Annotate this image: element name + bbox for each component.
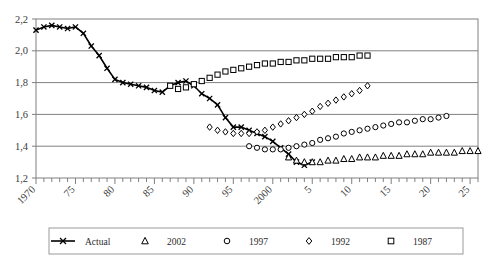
circle-marker xyxy=(404,120,409,125)
circle-marker xyxy=(412,118,417,123)
y-tick-label: 1,6 xyxy=(15,109,28,120)
circle-marker xyxy=(325,136,330,141)
y-tick-label: 2,0 xyxy=(15,45,28,56)
x-tick-label: 95 xyxy=(220,184,235,199)
circle-marker xyxy=(247,144,252,149)
x-tick-label: 15 xyxy=(377,184,392,199)
circle-marker xyxy=(373,125,378,130)
square-marker xyxy=(294,58,299,63)
fertility-projection-chart: 2,22,01,81,61,41,2 197075808590952000510… xyxy=(0,0,495,263)
x-tick-label: 90 xyxy=(180,184,195,199)
circle-marker xyxy=(310,140,315,145)
circle-marker xyxy=(436,115,441,120)
circle-marker xyxy=(254,145,259,150)
square-marker xyxy=(388,238,394,244)
square-marker xyxy=(207,75,212,80)
x-tick-label: 75 xyxy=(62,184,77,199)
circle-marker xyxy=(294,144,299,149)
circle-marker xyxy=(389,121,394,126)
circle-marker xyxy=(302,142,307,147)
plot-background xyxy=(36,19,478,178)
square-marker xyxy=(278,59,283,64)
y-tick-label: 1,4 xyxy=(15,141,29,152)
square-marker xyxy=(223,69,228,74)
circle-marker xyxy=(341,131,346,136)
legend-label: 1997 xyxy=(249,237,268,247)
y-axis-ticks xyxy=(32,19,36,178)
legend-label: 1992 xyxy=(331,237,350,247)
x-tick-label: 80 xyxy=(101,184,116,199)
circle-marker xyxy=(262,147,267,152)
square-marker xyxy=(262,61,267,66)
circle-marker xyxy=(357,128,362,133)
x-axis-ticks xyxy=(36,178,478,184)
circle-marker xyxy=(286,145,291,150)
square-marker xyxy=(341,55,346,60)
legend-label: 1987 xyxy=(413,237,432,247)
circle-marker xyxy=(381,123,386,128)
legend-label: 2002 xyxy=(167,237,186,247)
square-marker xyxy=(302,58,307,63)
plot-area xyxy=(32,19,478,184)
square-marker xyxy=(349,55,354,60)
square-marker xyxy=(239,66,244,71)
chart-container: 2,22,01,81,61,41,2 197075808590952000510… xyxy=(0,0,495,263)
circle-marker xyxy=(278,147,283,152)
square-marker xyxy=(231,67,236,72)
circle-marker xyxy=(349,129,354,134)
x-tick-label: 10 xyxy=(338,184,353,199)
square-marker xyxy=(247,64,252,69)
x-tick-label: 85 xyxy=(141,184,156,199)
y-tick-label: 2,2 xyxy=(15,14,28,25)
y-tick-label: 1,8 xyxy=(15,77,28,88)
square-marker xyxy=(215,72,220,77)
y-axis-labels: 2,22,01,81,61,41,2 xyxy=(15,14,29,184)
square-marker xyxy=(270,61,275,66)
square-marker xyxy=(325,56,330,61)
circle-marker xyxy=(444,113,449,118)
x-tick-label: 25 xyxy=(456,184,471,199)
square-marker xyxy=(183,85,188,90)
square-marker xyxy=(318,56,323,61)
square-marker xyxy=(254,63,259,68)
circle-marker xyxy=(365,126,370,131)
legend-label: Actual xyxy=(85,237,111,247)
x-tick-label: 5 xyxy=(302,184,313,195)
square-marker xyxy=(199,78,204,83)
y-tick-label: 1,2 xyxy=(15,173,28,184)
x-tick-label: 1970 xyxy=(15,184,38,207)
circle-marker xyxy=(428,117,433,122)
square-marker xyxy=(365,53,370,58)
legend-box: Actual2002199719921987 xyxy=(49,228,463,254)
square-marker xyxy=(175,86,180,91)
circle-marker xyxy=(224,238,230,244)
square-marker xyxy=(191,82,196,87)
circle-marker xyxy=(318,137,323,142)
square-marker xyxy=(168,83,173,88)
circle-marker xyxy=(270,147,275,152)
square-marker xyxy=(286,59,291,64)
circle-marker xyxy=(420,117,425,122)
x-axis-labels: 197075808590952000510152025 xyxy=(15,184,472,207)
x-tick-label: 20 xyxy=(417,184,432,199)
square-marker xyxy=(357,53,362,58)
circle-marker xyxy=(396,120,401,125)
square-marker xyxy=(333,55,338,60)
square-marker xyxy=(310,56,315,61)
circle-marker xyxy=(333,134,338,139)
x-tick-label: 2000 xyxy=(252,184,275,207)
